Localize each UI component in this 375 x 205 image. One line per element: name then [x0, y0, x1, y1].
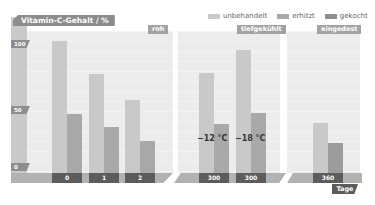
annotation-minus12: −12 °C — [197, 134, 228, 143]
baseline-tief — [174, 173, 286, 183]
legend-label: erhitzt — [292, 12, 315, 20]
swatch-erhitzt — [277, 14, 289, 19]
bar-roh-2-erhitzt — [140, 141, 155, 173]
x-tick-360: 360 — [313, 173, 343, 183]
swatch-gekocht — [325, 14, 337, 19]
bar-tief-18-erhitzt — [251, 113, 266, 173]
legend-item-gekocht: gekocht — [325, 12, 368, 20]
x-axis-label: Tage — [332, 184, 358, 194]
bar-dose-unbehandelt — [313, 123, 328, 173]
x-tick-0: 0 — [52, 173, 82, 183]
x-tick-2: 2 — [125, 173, 155, 183]
bar-roh-0-unbehandelt — [52, 41, 67, 173]
legend-item-unbehandelt: unbehandelt — [208, 12, 267, 20]
panel-label-tiefgekuehlt: tiefgekühlt — [237, 25, 286, 34]
annotation-minus18: −18 °C — [235, 134, 266, 143]
bar-roh-1-erhitzt — [104, 127, 119, 173]
chart-title: Vitamin-C-Gehalt / % — [13, 15, 115, 26]
panel-label-eingedost: eingedost — [317, 25, 361, 34]
x-tick-300a: 300 — [199, 173, 229, 183]
bar-dose-gekocht — [328, 143, 343, 173]
x-tick-300b: 300 — [236, 173, 266, 183]
panel-label-roh: roh — [148, 25, 168, 34]
bar-roh-2-unbehandelt — [125, 100, 140, 173]
bar-roh-1-unbehandelt — [89, 74, 104, 173]
legend-item-erhitzt: erhitzt — [277, 12, 315, 20]
legend-label: unbehandelt — [223, 12, 267, 20]
legend: unbehandelt erhitzt gekocht — [208, 12, 368, 20]
bar-tief-12-unbehandelt — [199, 73, 214, 173]
legend-label: gekocht — [340, 12, 368, 20]
bar-roh-0-erhitzt — [67, 114, 82, 173]
bar-tief-12-erhitzt — [214, 124, 229, 173]
swatch-unbehandelt — [208, 14, 220, 19]
x-tick-1: 1 — [89, 173, 119, 183]
bar-tief-18-unbehandelt — [236, 50, 251, 173]
